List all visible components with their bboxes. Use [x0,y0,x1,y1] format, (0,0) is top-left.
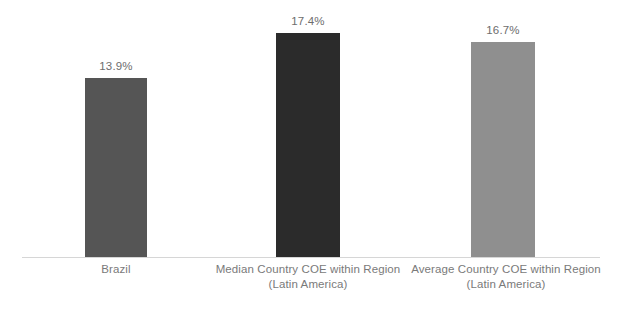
category-label-line1: Median Country COE within Region [216,263,401,275]
category-label-median-country-coe: Median Country COE within Region (Latin … [206,262,410,292]
bar-rect-median-country-coe[interactable] [276,33,340,258]
x-axis-baseline [22,257,600,258]
category-label-line2: (Latin America) [206,277,410,292]
bar-rect-brazil[interactable] [85,78,147,258]
bar-column: 13.9% [85,0,147,258]
category-axis-labels: Brazil Median Country COE within Region … [0,262,619,314]
bar-chart: 13.9% 17.4% 16.7% Brazil Median Country … [0,0,619,315]
bar-column: 17.4% [276,0,340,258]
bar-group-median-country-coe: 17.4% [276,0,340,258]
bar-column: 16.7% [471,0,535,258]
category-label-average-country-coe: Average Country COE within Region (Latin… [400,262,612,292]
bar-rect-average-country-coe[interactable] [471,42,535,258]
category-label-line1: Average Country COE within Region [411,263,601,275]
bar-group-brazil: 13.9% [85,0,147,258]
category-label-brazil: Brazil [76,262,156,277]
bar-value-label-brazil: 13.9% [99,60,133,73]
category-label-line1: Brazil [101,263,130,275]
category-label-line2: (Latin America) [400,277,612,292]
bar-value-label-median-country-coe: 17.4% [291,15,325,28]
bar-value-label-average-country-coe: 16.7% [486,24,520,37]
bar-group-average-country-coe: 16.7% [471,0,535,258]
plot-area: 13.9% 17.4% 16.7% [0,0,619,258]
